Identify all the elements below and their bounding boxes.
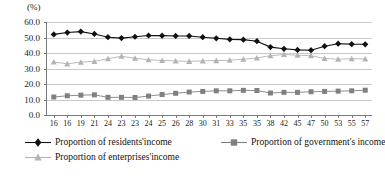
data-point: [349, 88, 354, 93]
y-tick-label: 10.0: [24, 95, 40, 104]
x-tick-mark: [176, 115, 177, 118]
x-tick-mark: [243, 115, 244, 118]
data-point: [335, 41, 341, 47]
x-tick-mark: [162, 115, 163, 118]
data-point: [78, 93, 83, 98]
data-point: [295, 90, 300, 95]
x-tick-label: 50: [321, 119, 329, 128]
legend-item-residents[interactable]: Proportion of residents'income: [25, 136, 172, 149]
data-point: [91, 31, 97, 37]
data-point: [254, 88, 259, 93]
triangle-marker-icon: [25, 152, 51, 163]
y-tick-label: 20.0: [24, 80, 40, 89]
x-tick-label: 35: [253, 119, 261, 128]
data-point: [322, 89, 327, 94]
x-tick-mark: [94, 115, 95, 118]
x-tick-label: 35: [239, 119, 247, 128]
data-point: [308, 47, 314, 53]
legend-label-enterprises: Proportion of enterprises'income: [55, 151, 179, 164]
x-tick-mark: [54, 115, 55, 118]
data-point: [281, 46, 287, 52]
data-point: [186, 33, 192, 39]
x-tick-mark: [149, 115, 150, 118]
x-tick-mark: [257, 115, 258, 118]
data-point: [227, 88, 232, 93]
data-point: [145, 32, 151, 38]
data-point: [146, 94, 151, 99]
legend-item-government[interactable]: Proportion of government's income: [221, 136, 385, 149]
x-tick-label: 16: [50, 119, 58, 128]
x-tick-mark: [121, 115, 122, 118]
data-point: [173, 91, 178, 96]
x-tick-label: 23: [117, 119, 125, 128]
legend-row-1: Proportion of residents'income Proportio…: [25, 136, 377, 151]
x-tick-label: 45: [294, 119, 302, 128]
legend: Proportion of residents'income Proportio…: [25, 136, 377, 166]
x-tick-mark: [216, 115, 217, 118]
data-point: [336, 89, 341, 94]
x-tick-mark: [325, 115, 326, 118]
data-point: [105, 95, 110, 100]
series-line: [54, 55, 365, 64]
data-point: [51, 31, 57, 37]
x-tick-label: 24: [145, 119, 153, 128]
series-layer: [47, 22, 372, 115]
x-tick-label: 28: [185, 119, 193, 128]
x-tick-mark: [284, 115, 285, 118]
x-tick-label: 26: [172, 119, 180, 128]
x-tick-label: 24: [104, 119, 112, 128]
data-point: [309, 89, 314, 94]
data-point: [267, 44, 273, 50]
data-point: [268, 90, 273, 95]
x-tick-mark: [189, 115, 190, 118]
legend-item-enterprises[interactable]: Proportion of enterprises'income: [25, 151, 179, 164]
x-tick-mark: [338, 115, 339, 118]
x-tick-label: 47: [307, 119, 315, 128]
x-tick-mark: [311, 115, 312, 118]
x-tick-label: 38: [266, 119, 274, 128]
x-tick-label: 57: [361, 119, 369, 128]
plot-area: 0.010.020.030.040.050.060.0 161619212423…: [46, 22, 372, 116]
y-tick-mark: [44, 115, 47, 116]
x-tick-mark: [203, 115, 204, 118]
data-point: [200, 89, 205, 94]
series-line: [54, 32, 365, 51]
data-point: [362, 41, 368, 47]
y-tick-label: 50.0: [24, 33, 40, 42]
x-tick-mark: [108, 115, 109, 118]
y-axis-unit-label: (%): [27, 2, 41, 12]
data-point: [159, 33, 165, 39]
data-point: [281, 90, 286, 95]
data-point: [213, 35, 219, 41]
y-tick-label: 60.0: [24, 18, 40, 27]
x-tick-mark: [365, 115, 366, 118]
x-tick-label: 31: [212, 119, 220, 128]
data-point: [200, 34, 206, 40]
x-tick-label: 42: [280, 119, 288, 128]
data-point: [118, 53, 124, 59]
x-tick-mark: [67, 115, 68, 118]
data-point: [349, 41, 355, 47]
data-point: [118, 35, 124, 41]
series-triangle: [51, 52, 368, 67]
legend-row-2: Proportion of enterprises'income: [25, 151, 377, 166]
x-tick-mark: [135, 115, 136, 118]
data-point: [214, 88, 219, 93]
x-tick-label: 23: [131, 119, 139, 128]
series-diamond: [51, 29, 369, 54]
x-tick-label: 55: [348, 119, 356, 128]
data-point: [64, 29, 70, 35]
data-point: [160, 92, 165, 97]
x-tick-label: 19: [77, 119, 85, 128]
x-tick-mark: [352, 115, 353, 118]
data-point: [119, 95, 124, 100]
data-point: [78, 29, 84, 35]
x-tick-mark: [230, 115, 231, 118]
data-point: [187, 90, 192, 95]
x-tick-label: 30: [199, 119, 207, 128]
data-point: [254, 38, 260, 44]
x-tick-label: 16: [63, 119, 71, 128]
x-tick-mark: [81, 115, 82, 118]
y-tick-label: 0.0: [29, 111, 40, 120]
